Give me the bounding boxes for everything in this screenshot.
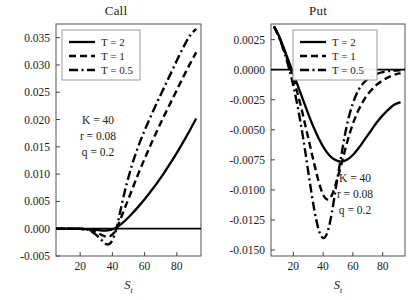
y-tick-label: 0.035 [24,32,50,44]
y-tick-label: 0.020 [24,114,50,126]
annotation-line: r = 0.08 [337,188,373,200]
x-tick-label: 20 [288,260,300,272]
panel-put-plot: -0.0150-0.0125-0.0100-0.0075-0.0050-0.00… [209,0,419,300]
panel-put: Put -0.0150-0.0125-0.0100-0.0075-0.0050-… [209,0,419,300]
x-tick-label: 20 [74,260,86,272]
y-tick-label: -0.005 [20,250,50,262]
legend-label: T = 2 [101,36,125,48]
y-tick-label: 0.000 [24,223,50,235]
x-tick-label: 60 [139,260,151,272]
legend-label: T = 0.5 [101,64,133,76]
annotation-line: q = 0.2 [339,204,372,217]
y-tick-label: -0.0025 [230,94,266,106]
x-tick-label: 60 [347,260,359,272]
series-curve-solid [56,118,196,230]
panel-call-plot: -0.0050.0000.0050.0100.0150.0200.0250.03… [0,0,210,300]
y-tick-label: -0.0125 [230,214,266,226]
y-tick-label: 0.0025 [233,34,265,46]
annotation-line: K = 40 [339,172,371,184]
legend-label: T = 2 [332,36,356,48]
y-tick-label: 0.030 [24,59,50,71]
panel-call: Call -0.0050.0000.0050.0100.0150.0200.02… [0,0,210,300]
annotation-line: q = 0.2 [82,146,115,159]
legend-label: T = 1 [332,50,356,62]
x-tick-label: 80 [171,260,183,272]
y-tick-label: 0.005 [24,195,50,207]
annotation-line: K = 40 [82,114,114,126]
x-tick-label: 40 [317,260,329,272]
y-tick-label: 0.0000 [233,64,265,76]
legend-label: T = 0.5 [332,64,364,76]
x-axis-title: St [334,278,343,295]
y-tick-label: -0.0150 [230,244,266,256]
y-tick-label: -0.0100 [230,184,266,196]
x-tick-label: 80 [377,260,389,272]
annotation-line: r = 0.08 [80,130,116,142]
y-tick-label: -0.0075 [230,154,266,166]
y-tick-label: 0.015 [24,141,50,153]
x-tick-label: 40 [107,260,119,272]
y-tick-label: 0.025 [24,86,50,98]
legend-label: T = 1 [101,50,125,62]
y-tick-label: -0.0050 [230,124,266,136]
y-tick-label: 0.010 [24,168,50,180]
figure-root: Call -0.0050.0000.0050.0100.0150.0200.02… [0,0,419,300]
x-axis-title: St [124,278,133,295]
